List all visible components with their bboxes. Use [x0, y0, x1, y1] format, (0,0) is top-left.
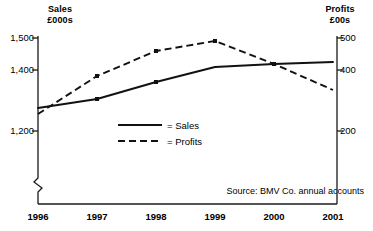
line-chart: Sales £000s Profits £00s 1,500 1,400 1,2…: [0, 0, 373, 231]
series-line-profits: [38, 41, 333, 114]
series-markers-sales: [95, 62, 276, 101]
series-line-sales: [38, 62, 333, 108]
left-axis-line: [34, 36, 42, 204]
chart-plot-area: [0, 0, 373, 231]
series-markers-profits: [95, 39, 217, 78]
